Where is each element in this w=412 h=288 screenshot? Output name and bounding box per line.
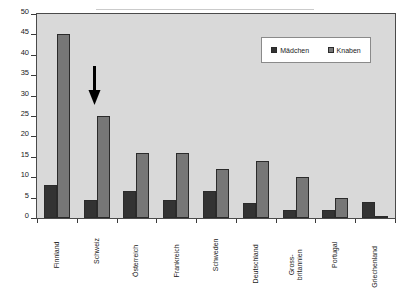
y-tick-mark: [31, 75, 36, 76]
x-tick-mark: [315, 219, 316, 223]
x-axis-label-text: Gross-britannien: [288, 249, 304, 280]
y-tick-mark: [31, 136, 36, 137]
bar-girls: [322, 210, 335, 218]
x-axis-label-text: Schweden: [212, 238, 220, 271]
bar-group: [117, 14, 157, 218]
bar-girls: [123, 191, 136, 218]
legend-swatch-icon: [328, 47, 334, 53]
x-axis: FinnlandSchweizÖsterreichFrankreichSchwe…: [37, 219, 395, 268]
bar-boys: [97, 116, 110, 218]
y-tick-label: 40: [21, 49, 29, 57]
bar-boys: [57, 34, 70, 218]
bar-girls: [44, 185, 57, 218]
x-tick-mark: [395, 219, 396, 223]
bar-boys: [216, 169, 229, 218]
bar-girls: [84, 200, 97, 218]
x-tick-mark: [156, 219, 157, 223]
legend: MädchenKnaben: [261, 37, 371, 63]
x-tick-mark: [276, 219, 277, 223]
y-axis: 05101520253035404550: [0, 13, 36, 219]
bar-boys: [335, 198, 348, 218]
y-tick-label: 5: [25, 192, 29, 200]
x-axis-label-text: Finnland: [53, 241, 61, 268]
bar-group: [156, 14, 196, 218]
y-tick-mark: [31, 14, 36, 15]
x-tick-mark: [236, 219, 237, 223]
bar-group: [196, 14, 236, 218]
y-tick-mark: [31, 96, 36, 97]
x-tick-mark: [77, 219, 78, 223]
legend-label: Mädchen: [280, 47, 309, 54]
bar-girls: [163, 200, 176, 218]
y-tick-mark: [31, 157, 36, 158]
bar-boys: [176, 153, 189, 218]
x-axis-label-text: Deutschland: [252, 245, 260, 284]
y-tick-label: 50: [21, 8, 29, 16]
x-axis-label-text: Frankreich: [172, 244, 180, 277]
y-tick-label: 0: [25, 212, 29, 220]
bar-boys: [256, 161, 269, 218]
legend-item[interactable]: Mädchen: [271, 47, 309, 54]
x-tick-mark: [117, 219, 118, 223]
bar-group: [37, 14, 77, 218]
bar-girls: [243, 203, 256, 218]
y-tick-mark: [31, 116, 36, 117]
y-tick-label: 20: [21, 130, 29, 138]
y-tick-label: 25: [21, 110, 29, 118]
y-tick-mark: [31, 177, 36, 178]
legend-swatch-icon: [271, 47, 277, 53]
arrow-down-icon: [88, 66, 101, 105]
y-tick-label: 45: [21, 28, 29, 36]
y-tick-mark: [31, 55, 36, 56]
bar-boys: [136, 153, 149, 218]
y-tick-mark: [31, 218, 36, 219]
bar-group: [77, 14, 117, 218]
scan-artifact-line: [96, 9, 314, 10]
y-tick-label: 30: [21, 90, 29, 98]
legend-label: Knaben: [337, 47, 361, 54]
bar-boys: [375, 216, 388, 218]
x-axis-label-text: Schweiz: [93, 238, 101, 264]
bar-girls: [362, 202, 375, 218]
y-tick-label: 35: [21, 69, 29, 77]
x-axis-label-text: Griechenland: [371, 246, 379, 288]
y-tick-mark: [31, 198, 36, 199]
x-axis-label-text: Portugal: [331, 241, 339, 267]
x-axis-label-text: Österreich: [133, 245, 141, 277]
y-tick-label: 15: [21, 151, 29, 159]
x-tick-mark: [196, 219, 197, 223]
y-tick-label: 10: [21, 171, 29, 179]
x-tick-mark: [37, 219, 38, 223]
y-tick-mark: [31, 34, 36, 35]
bar-boys: [296, 177, 309, 218]
legend-item[interactable]: Knaben: [328, 47, 361, 54]
bar-girls: [203, 191, 216, 218]
bar-girls: [283, 210, 296, 218]
x-tick-mark: [355, 219, 356, 223]
